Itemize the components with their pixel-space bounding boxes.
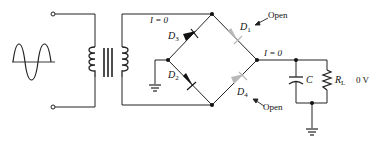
ground-icon-output	[306, 129, 318, 135]
d3-label: D3	[168, 31, 179, 43]
d4-label: D4	[237, 87, 248, 99]
transformer-icon	[89, 14, 212, 105]
resistor-icon	[323, 70, 331, 90]
primary-wiring	[51, 12, 95, 109]
sine-wave-icon	[12, 44, 55, 80]
output-voltage-label: 0 V	[356, 76, 369, 85]
d2-label: D2	[168, 70, 179, 82]
ground-icon-left	[149, 85, 161, 91]
load-label: RL	[335, 75, 345, 87]
capacitor-label: C	[306, 75, 313, 85]
d1-label: D1	[240, 22, 251, 34]
diode-d4-open-icon	[231, 72, 247, 84]
d1-open-label: Open	[268, 11, 288, 20]
circuit-diagram: I = 0 I = 0 D3 D2 D1 D4 Open Open C RL 0…	[0, 0, 380, 146]
current-label-top: I = 0	[150, 16, 168, 25]
current-label-output: I = 0	[264, 49, 282, 58]
schematic	[0, 0, 380, 146]
output-wiring	[257, 60, 327, 128]
diode-d2-icon	[183, 73, 196, 90]
d4-open-label: Open	[263, 103, 283, 112]
